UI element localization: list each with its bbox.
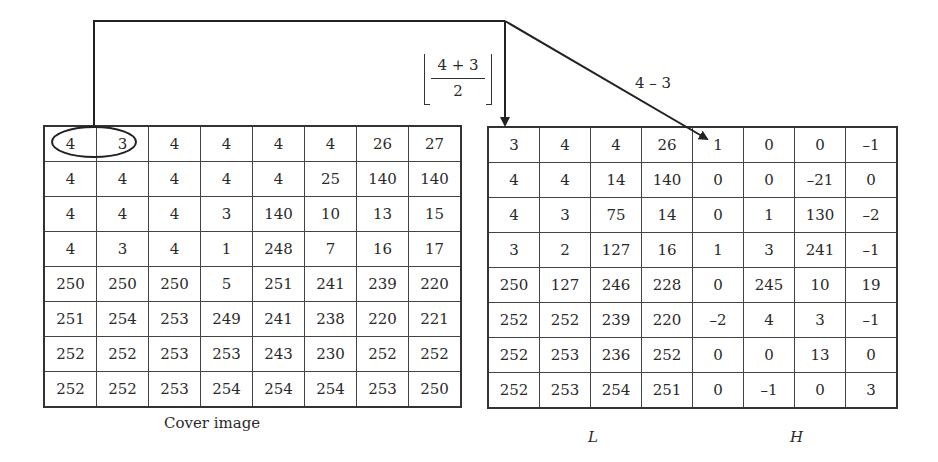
lh-cell: 4	[540, 127, 591, 163]
cover-cell: 250	[149, 267, 201, 302]
formula-denominator: 2	[423, 82, 493, 100]
lh-cell: 1	[693, 127, 744, 163]
cover-row: 251254253249241238220221	[44, 302, 461, 337]
cover-cell: 26	[357, 126, 409, 162]
lh-cell: 1	[693, 233, 744, 268]
cover-cell: 4	[44, 162, 97, 197]
cover-cell: 220	[357, 302, 409, 337]
lh-cell: 14	[642, 198, 693, 233]
lh-cell: 245	[744, 268, 795, 303]
lh-row: 252252239220–243–1	[488, 303, 897, 338]
cover-cell: 252	[409, 337, 462, 372]
cover-cell: 253	[201, 337, 253, 372]
lh-cell: 246	[591, 268, 642, 303]
lh-cell: 251	[642, 373, 693, 409]
lh-cell: –1	[744, 373, 795, 409]
floor-average-formula: 4 + 3 2	[423, 52, 493, 108]
lh-cell: 130	[795, 198, 846, 233]
lh-cell: 127	[540, 268, 591, 303]
cover-cell: 4	[149, 197, 201, 232]
cover-cell: 250	[44, 267, 97, 302]
cover-cell: 253	[149, 372, 201, 408]
cover-cell: 252	[97, 372, 149, 408]
cover-cell: 4	[97, 197, 149, 232]
lh-cell: 3	[488, 127, 540, 163]
lh-cell: 127	[591, 233, 642, 268]
lh-cell: 241	[795, 233, 846, 268]
lh-cell: 4	[744, 303, 795, 338]
cover-cell: 230	[305, 337, 357, 372]
cover-row: 252252253254254254253250	[44, 372, 461, 408]
lh-cell: 220	[642, 303, 693, 338]
cover-cell: 140	[357, 162, 409, 197]
lh-cell: 13	[795, 338, 846, 373]
lh-cell: 3	[795, 303, 846, 338]
lh-cell: 3	[540, 198, 591, 233]
cover-cell: 241	[305, 267, 357, 302]
cover-cell: 3	[97, 126, 149, 162]
cover-cell: 5	[201, 267, 253, 302]
cover-cell: 15	[409, 197, 462, 232]
cover-cell: 4	[44, 232, 97, 267]
lh-row: 34426100–1	[488, 127, 897, 163]
lh-cell: 3	[488, 233, 540, 268]
lh-cell: 0	[795, 127, 846, 163]
cover-cell: 4	[149, 162, 201, 197]
cover-row: 4443140101315	[44, 197, 461, 232]
cover-cell: 4	[149, 232, 201, 267]
lh-cell: 228	[642, 268, 693, 303]
cover-row: 4444425140140	[44, 162, 461, 197]
lh-row: 321271613241–1	[488, 233, 897, 268]
lh-row: 25225323625200130	[488, 338, 897, 373]
cover-row: 4344442627	[44, 126, 461, 162]
cover-cell: 140	[253, 197, 305, 232]
lh-cell: 0	[795, 373, 846, 409]
cover-cell: 238	[305, 302, 357, 337]
lh-cell: 1	[744, 198, 795, 233]
lh-cell: 253	[540, 373, 591, 409]
lh-row: 25012724622802451019	[488, 268, 897, 303]
lh-cell: 3	[744, 233, 795, 268]
lh-cell: 239	[591, 303, 642, 338]
lh-cell: 253	[540, 338, 591, 373]
lh-row: 441414000–210	[488, 163, 897, 198]
lh-cell: 250	[488, 268, 540, 303]
lh-row: 43751401130–2	[488, 198, 897, 233]
lh-cell: –2	[693, 303, 744, 338]
cover-cell: 250	[409, 372, 462, 408]
lh-cell: –1	[846, 303, 898, 338]
fraction-bar	[431, 78, 485, 79]
lh-cell: 2	[540, 233, 591, 268]
cover-cell: 16	[357, 232, 409, 267]
lh-cell: 4	[540, 163, 591, 198]
lh-cell: 252	[642, 338, 693, 373]
cover-cell: 249	[201, 302, 253, 337]
cover-cell: 1	[201, 232, 253, 267]
lh-cell: 254	[591, 373, 642, 409]
cover-cell: 220	[409, 267, 462, 302]
lh-cell: 3	[846, 373, 898, 409]
lh-cell: 26	[642, 127, 693, 163]
low-band-caption: L	[588, 428, 598, 446]
lh-cell: 10	[795, 268, 846, 303]
lh-cell: 0	[744, 163, 795, 198]
cover-cell: 4	[201, 162, 253, 197]
cover-cell: 254	[97, 302, 149, 337]
high-band-caption: H	[790, 428, 803, 446]
lh-cell: 0	[846, 338, 898, 373]
cover-cell: 252	[44, 337, 97, 372]
cover-image-table: 4344442627444442514014044431401013154341…	[43, 125, 462, 408]
cover-cell: 239	[357, 267, 409, 302]
cover-cell: 4	[44, 126, 97, 162]
lh-cell: 236	[591, 338, 642, 373]
lh-cell: 19	[846, 268, 898, 303]
cover-cell: 25	[305, 162, 357, 197]
lh-cell: 252	[488, 373, 540, 409]
lh-cell: 0	[693, 373, 744, 409]
cover-cell: 252	[357, 337, 409, 372]
cover-cell: 253	[149, 302, 201, 337]
lh-cell: 0	[744, 127, 795, 163]
cover-cell: 4	[44, 197, 97, 232]
cover-cell: 4	[253, 126, 305, 162]
lh-cell: 252	[488, 338, 540, 373]
